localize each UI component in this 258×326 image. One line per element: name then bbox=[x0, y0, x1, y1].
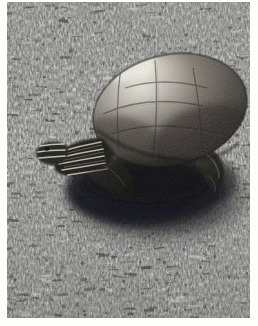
photo-page: Turtle on wet gravel Black and white pho… bbox=[0, 0, 258, 326]
photo-grain-overlay bbox=[7, 2, 250, 318]
turtle-photograph: Turtle on wet gravel Black and white pho… bbox=[7, 2, 250, 318]
photograph-frame: Turtle on wet gravel Black and white pho… bbox=[7, 2, 250, 318]
